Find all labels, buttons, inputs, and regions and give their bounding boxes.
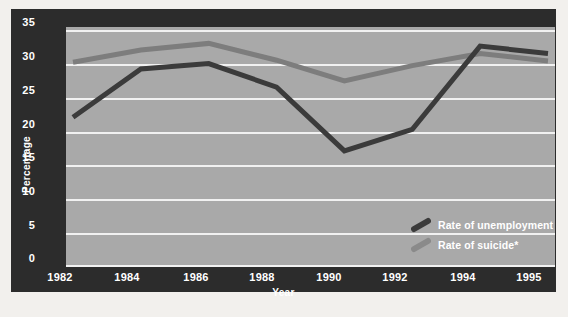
x-tick-1990: 1990 <box>299 271 359 283</box>
x-tick-1988: 1988 <box>232 271 292 283</box>
y-tick-30: 30 <box>1 50 35 62</box>
chart-frame: 35 30 25 20 15 10 5 0 Percentage 1982 19… <box>11 9 556 292</box>
legend-swatch-icon-suicide <box>411 237 431 253</box>
legend-label-unemployment: Rate of unemployment <box>438 219 553 231</box>
line-rate-of-unemployment <box>73 46 548 151</box>
x-axis-label: Year <box>11 287 556 298</box>
legend-label-suicide: Rate of suicide* <box>438 239 518 251</box>
x-tick-1982: 1982 <box>30 271 90 283</box>
x-tick-1992: 1992 <box>365 271 425 283</box>
y-tick-25: 25 <box>1 84 35 96</box>
y-tick-5: 5 <box>1 219 35 231</box>
chart-figure: 35 30 25 20 15 10 5 0 Percentage 1982 19… <box>0 0 568 317</box>
x-tick-1984: 1984 <box>97 271 157 283</box>
y-tick-35: 35 <box>1 16 35 28</box>
legend-item-unemployment: Rate of unemployment <box>411 215 568 235</box>
y-tick-0: 0 <box>1 252 35 264</box>
legend-swatch-icon-unemployment <box>411 217 431 233</box>
x-tick-1994: 1994 <box>433 271 493 283</box>
x-tick-1995: 1995 <box>499 271 559 283</box>
chart-legend: Rate of unemployment Rate of suicide* <box>411 215 568 255</box>
legend-item-suicide: Rate of suicide* <box>411 235 568 255</box>
x-tick-1986: 1986 <box>166 271 226 283</box>
y-axis-label: Percentage <box>21 125 32 205</box>
